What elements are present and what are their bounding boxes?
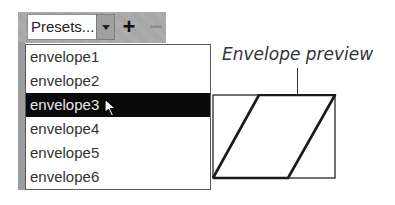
preview-frame: [213, 95, 335, 178]
presets-combo-input[interactable]: Presets...: [27, 14, 96, 40]
add-preset-button[interactable]: +: [118, 14, 140, 40]
envelope-preview-label: Envelope preview: [222, 44, 373, 64]
mouse-pointer-icon: [104, 98, 118, 118]
list-item[interactable]: envelope4: [26, 117, 210, 141]
list-item[interactable]: envelope1: [26, 45, 210, 69]
remove-preset-button[interactable]: −: [145, 14, 167, 40]
list-item[interactable]: envelope3: [26, 93, 210, 117]
presets-dropdown-button[interactable]: [96, 14, 115, 40]
envelope-preview-box: [212, 94, 338, 181]
list-item[interactable]: envelope2: [26, 69, 210, 93]
chevron-down-icon: [102, 25, 110, 30]
list-item[interactable]: envelope5: [26, 141, 210, 165]
panel-edge: [18, 42, 25, 190]
list-item[interactable]: envelope6: [26, 165, 210, 189]
presets-dropdown-list[interactable]: envelope1 envelope2 envelope3 envelope4 …: [25, 44, 211, 190]
